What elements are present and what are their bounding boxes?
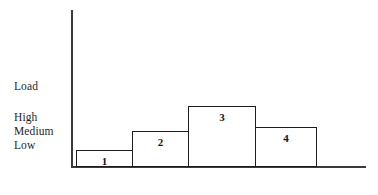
y-axis-title: Load — [14, 80, 38, 92]
bar-1-label: 1 — [77, 155, 132, 167]
bar-1: 1 — [76, 150, 133, 167]
bar-4: 4 — [255, 127, 317, 167]
bar-2: 2 — [132, 131, 189, 167]
y-axis-tick-high: High — [14, 111, 37, 123]
y-axis-tick-low: Low — [14, 139, 35, 151]
y-axis-line — [71, 10, 73, 168]
bar-3: 3 — [188, 106, 256, 167]
bar-4-label: 4 — [256, 132, 316, 144]
bar-3-label: 3 — [189, 111, 255, 123]
bar-chart: Load High Medium Low 1 2 3 4 — [0, 0, 378, 195]
y-axis-tick-medium: Medium — [14, 125, 54, 137]
bar-2-label: 2 — [133, 136, 188, 148]
